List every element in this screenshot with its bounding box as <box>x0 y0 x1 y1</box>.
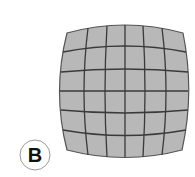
figure-label: B <box>28 144 42 166</box>
distorted-grid <box>60 25 189 158</box>
barrel-distortion-diagram: B <box>0 0 195 177</box>
figure-label-badge: B <box>20 140 50 170</box>
